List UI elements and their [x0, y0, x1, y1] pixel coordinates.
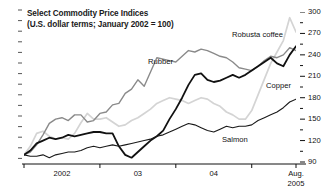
- y-axis-left-ticks: [16, 8, 26, 168]
- x-tick-label-end: Aug.: [276, 169, 316, 178]
- x-axis: 20020304Aug.2005: [0, 163, 330, 195]
- y-tick-label: 150: [308, 115, 321, 123]
- y-tick-label: 210: [308, 72, 321, 80]
- x-tick-label: 04: [194, 169, 234, 178]
- y-tick-label: 120: [308, 137, 321, 145]
- series-label-robusta-coffee: Robusta coffee: [232, 30, 283, 39]
- series-label-salmon: Salmon: [222, 135, 248, 144]
- y-tick-label: 300: [308, 8, 321, 16]
- x-tick-label: 03: [118, 169, 158, 178]
- x-tick-label: 2002: [42, 169, 82, 178]
- series-line-salmon: [24, 99, 296, 158]
- series-label-copper: Copper: [266, 81, 291, 90]
- y-tick-label: 270: [308, 29, 321, 37]
- series-label-rubber: Rubber: [148, 57, 173, 66]
- y-tick-label: 240: [308, 51, 321, 59]
- y-axis: 30027024021018015012090: [300, 12, 330, 164]
- x-tick-label-end-year: 2005: [276, 179, 316, 188]
- commodity-price-chart: Select Commodity Price Indices (U.S. dol…: [0, 0, 330, 195]
- y-tick-label: 180: [308, 94, 321, 102]
